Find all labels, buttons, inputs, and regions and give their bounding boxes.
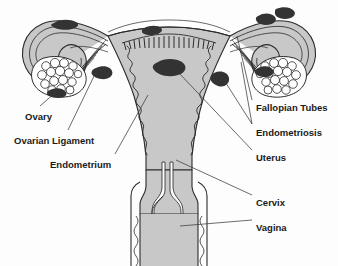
lesion-right-tube-top2 xyxy=(275,7,295,19)
vagina xyxy=(140,214,198,266)
fornix-left xyxy=(131,182,140,196)
vaginal-rugae-right xyxy=(200,216,204,266)
diagram-canvas: Ovary Ovarian Ligament Endometrium Fallo… xyxy=(0,0,338,266)
label-endometrium: Endometrium xyxy=(50,160,111,170)
label-ovary: Ovary xyxy=(25,112,52,122)
label-cervix: Cervix xyxy=(256,198,285,208)
cervix xyxy=(140,170,198,214)
label-fallopian-tubes: Fallopian Tubes xyxy=(256,103,328,113)
fornix-right xyxy=(198,182,207,196)
lesion-left-mesosalpinx xyxy=(91,66,112,79)
label-endometriosis: Endometriosis xyxy=(256,128,322,138)
label-ovarian-ligament: Ovarian Ligament xyxy=(14,136,94,146)
label-vagina: Vagina xyxy=(256,223,287,233)
label-uterus: Uterus xyxy=(256,153,286,163)
vaginal-rugae-left xyxy=(134,216,138,266)
